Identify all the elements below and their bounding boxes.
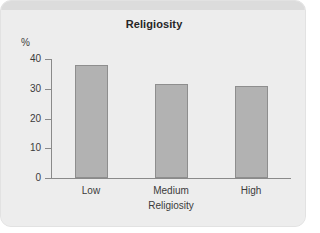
chart-title: Religiosity — [1, 18, 306, 30]
y-tick-label: 30 — [15, 83, 41, 94]
chart-screenshot: Religiosity % 403020100 LowMediumHigh Re… — [0, 0, 320, 233]
y-axis-line — [51, 59, 52, 179]
y-tick-label: 10 — [15, 142, 41, 153]
y-tick-mark — [45, 148, 51, 149]
y-axis-unit-label: % — [21, 37, 30, 48]
y-tick-mark — [45, 119, 51, 120]
y-tick-label: 0 — [15, 172, 41, 183]
y-tick-label: 40 — [15, 53, 41, 64]
x-tick-label: Medium — [131, 185, 211, 196]
y-tick-mark — [45, 59, 51, 60]
y-tick-mark — [45, 178, 51, 179]
chart-panel: Religiosity % 403020100 LowMediumHigh Re… — [0, 0, 306, 227]
y-tick-mark — [45, 89, 51, 90]
bar — [75, 65, 108, 178]
x-tick-label: Low — [51, 185, 131, 196]
y-tick-label: 20 — [15, 113, 41, 124]
bar — [235, 86, 268, 178]
panel-top-band — [1, 1, 306, 10]
bar — [155, 84, 188, 178]
x-tick-label: High — [211, 185, 291, 196]
x-axis-title: Religiosity — [51, 200, 291, 211]
x-axis-line — [51, 178, 291, 179]
